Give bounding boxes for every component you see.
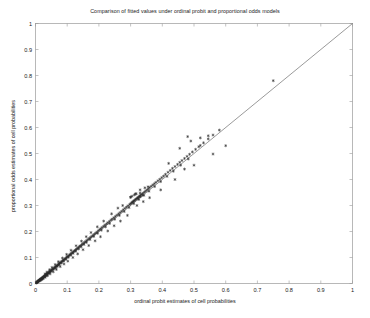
- data-point-marker: [181, 159, 184, 162]
- data-point-marker: [110, 212, 113, 215]
- x-tick-label: 0.5: [190, 287, 198, 293]
- y-tick-label: 0.9: [24, 47, 32, 53]
- data-point-marker: [190, 140, 193, 143]
- data-point-marker: [99, 235, 102, 238]
- x-tick-label: 0.3: [127, 287, 135, 293]
- x-tick-labels: 00.10.20.30.40.50.60.70.80.91: [34, 287, 354, 293]
- y-tick-label: 0.3: [24, 203, 32, 209]
- data-point-marker: [159, 188, 162, 191]
- y-tick-label: 0.7: [24, 99, 32, 105]
- x-tick-label: 0.9: [317, 287, 325, 293]
- data-point-marker: [136, 204, 139, 207]
- data-point-marker: [87, 244, 90, 247]
- y-tick-label: 0.5: [24, 151, 32, 157]
- y-tick-label: 0: [29, 281, 32, 287]
- data-point-marker: [188, 153, 191, 156]
- data-point-marker: [167, 171, 170, 174]
- data-point-marker: [224, 144, 227, 147]
- data-point-marker: [142, 200, 145, 203]
- data-point-marker: [106, 229, 109, 232]
- x-tick-label: 0.7: [254, 287, 262, 293]
- data-point-marker: [194, 148, 197, 151]
- data-point-marker: [176, 163, 179, 166]
- data-point-marker: [131, 195, 134, 198]
- x-tick-label: 0.1: [63, 287, 71, 293]
- data-point-marker: [174, 165, 177, 168]
- figure-container: Comparison of fitted values under ordina…: [0, 0, 370, 318]
- data-point-marker: [218, 129, 221, 132]
- data-point-marker: [119, 220, 122, 223]
- data-point-marker: [126, 214, 129, 217]
- data-point-marker: [199, 136, 202, 139]
- data-point-marker: [178, 147, 181, 150]
- data-point-marker: [129, 196, 132, 199]
- data-point-marker: [113, 224, 116, 227]
- data-point-marker: [183, 168, 186, 171]
- data-point-marker: [171, 167, 174, 170]
- data-point-marker: [65, 253, 68, 256]
- data-point-marker: [186, 155, 189, 158]
- data-point-marker: [102, 220, 105, 223]
- y-tick-labels: 00.10.20.30.40.50.60.70.80.91: [24, 21, 32, 287]
- data-point-marker: [207, 134, 210, 137]
- data-point-marker: [191, 150, 194, 153]
- x-tick-label: 0.6: [222, 287, 230, 293]
- data-point-marker: [183, 157, 186, 160]
- data-point-marker: [75, 244, 78, 247]
- data-point-marker: [94, 239, 97, 242]
- data-point-marker: [202, 141, 205, 144]
- data-point-marker: [212, 153, 215, 156]
- data-point-marker: [80, 240, 83, 243]
- x-tick-label: 1: [351, 287, 354, 293]
- x-axis-label: ordinal probit estimates of cell probabi…: [0, 298, 370, 304]
- data-point-marker: [207, 137, 210, 140]
- data-point-marker: [193, 164, 196, 167]
- data-point-marker: [72, 256, 75, 259]
- scatter-plot: 00.10.20.30.40.50.60.70.80.91 00.10.20.3…: [0, 0, 370, 318]
- data-point-marker: [148, 196, 151, 199]
- data-point-marker: [70, 249, 73, 252]
- x-tick-label: 0.2: [95, 287, 103, 293]
- y-tick-label: 0.1: [24, 255, 32, 261]
- data-point-marker: [117, 207, 120, 210]
- data-point-marker: [90, 231, 93, 234]
- data-point-marker: [76, 252, 79, 255]
- data-point-marker: [96, 225, 99, 228]
- data-point-marker: [178, 161, 181, 164]
- data-point-marker: [272, 79, 275, 82]
- data-point-marker: [85, 235, 88, 238]
- y-axis-label: proportional odds estimates of cell prob…: [10, 56, 16, 256]
- y-tick-label: 0.8: [24, 73, 32, 79]
- data-point-marker: [186, 135, 189, 138]
- data-point-marker: [139, 188, 142, 191]
- y-tick-label: 1: [29, 21, 32, 27]
- data-point-markers: [35, 79, 275, 284]
- data-point-marker: [167, 162, 170, 165]
- data-point-marker: [121, 204, 124, 207]
- data-point-marker: [144, 186, 147, 189]
- y-tick-label: 0.4: [24, 177, 32, 183]
- data-point-marker: [169, 169, 172, 172]
- data-point-marker: [212, 134, 215, 137]
- data-point-marker: [82, 248, 85, 251]
- data-point-marker: [174, 178, 177, 181]
- y-tick-label: 0.6: [24, 125, 32, 131]
- data-point-marker: [63, 263, 66, 266]
- y-tick-label: 0.2: [24, 229, 32, 235]
- x-tick-label: 0: [34, 287, 37, 293]
- x-tick-label: 0.4: [158, 287, 166, 293]
- x-tick-label: 0.8: [285, 287, 293, 293]
